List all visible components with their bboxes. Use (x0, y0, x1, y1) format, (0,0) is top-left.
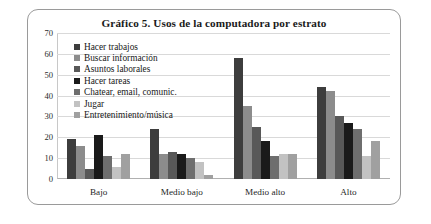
legend-label: Jugar (84, 99, 104, 109)
bar (243, 106, 252, 179)
legend-label: Chatear, email, comunic. (84, 87, 177, 97)
bar (204, 175, 213, 179)
y-axis-tick-label: 40 (44, 91, 53, 101)
legend-label: Entretenimiento/música (84, 110, 173, 120)
bar (186, 158, 195, 179)
y-axis-tick-label: 20 (44, 132, 53, 142)
bar (112, 167, 121, 180)
legend-swatch-icon (74, 44, 80, 50)
bar (76, 146, 85, 179)
legend-swatch-icon (74, 101, 80, 107)
y-axis-tick-label: 0 (49, 174, 53, 184)
legend-item: Entretenimiento/música (74, 109, 177, 120)
legend-label: Hacer trabajos (84, 42, 138, 52)
bar (344, 123, 353, 179)
bar (279, 154, 288, 179)
legend-label: Buscar información (84, 53, 158, 63)
y-axis-tick-label: 70 (44, 28, 53, 38)
bar (85, 169, 94, 179)
bar (159, 154, 168, 179)
legend-swatch-icon (74, 89, 80, 95)
legend-swatch-icon (74, 55, 80, 61)
legend-item: Hacer trabajos (74, 41, 177, 52)
legend-item: Buscar información (74, 52, 177, 63)
legend-item: Hacer tareas (74, 75, 177, 86)
x-axis-category-label: Bajo (90, 187, 107, 197)
chart-title: Gráfico 5. Usos de la computadora por es… (28, 17, 400, 29)
bar (121, 154, 130, 179)
legend-label: Asuntos laborales (84, 64, 150, 74)
legend-item: Asuntos laborales (74, 64, 177, 75)
bar (371, 141, 380, 179)
legend-item: Chatear, email, comunic. (74, 87, 177, 98)
legend-swatch-icon (74, 112, 80, 118)
bar (168, 152, 177, 179)
bar (317, 87, 326, 179)
bar (94, 135, 103, 179)
bar (261, 141, 270, 179)
legend-label: Hacer tareas (84, 76, 130, 86)
bar (195, 162, 204, 179)
x-axis-category-label: Alto (340, 187, 356, 197)
bar (67, 139, 76, 179)
legend-swatch-icon (74, 78, 80, 84)
bar (234, 58, 243, 179)
y-axis-tick-label: 50 (44, 70, 53, 80)
bar (252, 127, 261, 179)
chart-legend: Hacer trabajosBuscar informaciónAsuntos … (74, 41, 177, 121)
legend-swatch-icon (74, 66, 80, 72)
bar (362, 156, 371, 179)
x-axis-category-label: Medio alto (245, 187, 285, 197)
y-axis-tick-label: 30 (44, 111, 53, 121)
bar (270, 156, 279, 179)
bar (103, 156, 112, 179)
bar (335, 116, 344, 179)
bar (353, 129, 362, 179)
bar-group (224, 33, 307, 179)
y-axis-tick-label: 60 (44, 49, 53, 59)
bar (326, 91, 335, 179)
chart-card: Gráfico 5. Usos de la computadora por es… (27, 9, 401, 205)
x-axis-category-label: Medio bajo (161, 187, 203, 197)
bar (288, 154, 297, 179)
bar-group (307, 33, 390, 179)
legend-item: Jugar (74, 98, 177, 109)
bar (177, 154, 186, 179)
y-axis-tick-label: 10 (44, 153, 53, 163)
bar (150, 129, 159, 179)
